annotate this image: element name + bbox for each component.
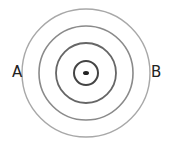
concentric-circles-diagram: [0, 0, 171, 150]
label-b: B: [151, 65, 161, 80]
center-dot: [83, 71, 89, 75]
label-a: A: [12, 65, 22, 80]
